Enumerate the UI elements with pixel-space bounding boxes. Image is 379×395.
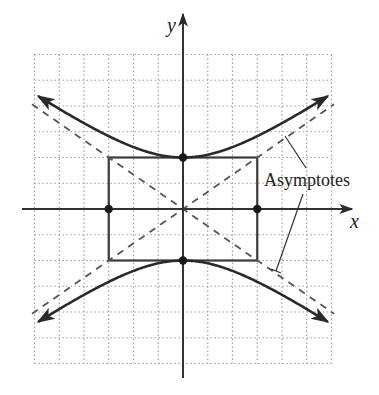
asymptote-pointer-lower: [276, 194, 303, 271]
asymptotes-label: Asymptotes: [264, 170, 350, 190]
vertex-point: [179, 256, 187, 264]
x-axis-label: x: [349, 210, 359, 232]
co-vertex-point: [253, 205, 261, 213]
asymptote-pointer-upper: [285, 136, 306, 168]
vertex-point: [179, 153, 187, 161]
y-axis-label: y: [165, 14, 176, 37]
co-vertex-point: [105, 205, 113, 213]
hyperbola-diagram: y x Asymptotes: [0, 0, 379, 395]
